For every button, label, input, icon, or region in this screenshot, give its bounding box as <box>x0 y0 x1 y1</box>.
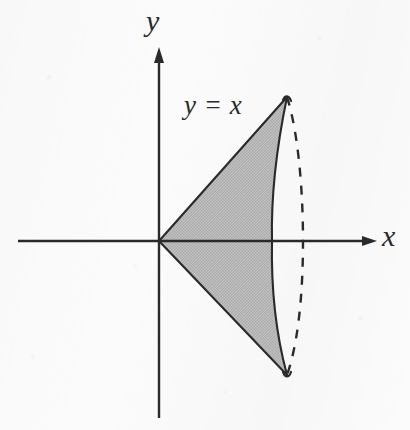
solid-of-revolution-diagram <box>0 0 410 430</box>
x-axis-arrowhead <box>362 236 377 246</box>
y-axis-label: y <box>146 6 159 36</box>
y-axis-arrowhead <box>154 47 164 63</box>
curve-equation-label: y = x <box>184 92 242 119</box>
figure-canvas: y x y = x <box>0 0 410 430</box>
x-axis-label: x <box>382 221 395 251</box>
back-ellipse-arc-dashed <box>287 97 303 375</box>
shaded-region <box>159 98 286 374</box>
